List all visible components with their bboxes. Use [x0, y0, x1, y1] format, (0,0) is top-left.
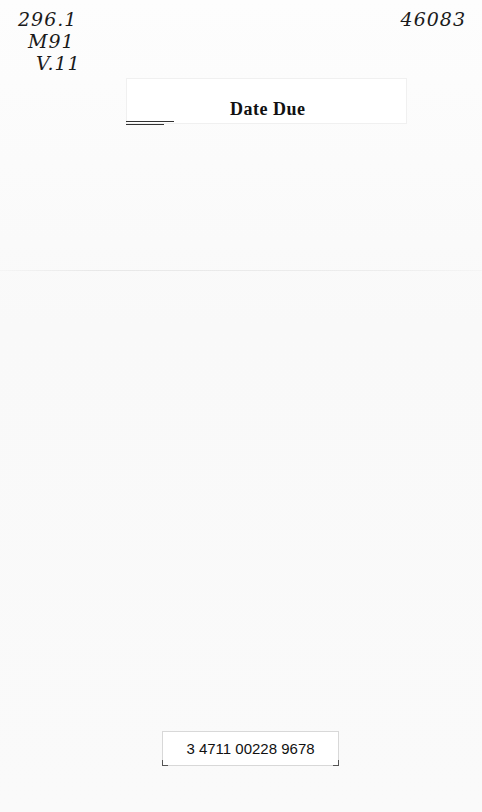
barcode-label: 3 4711 00228 9678: [162, 731, 339, 766]
corner-mark: [333, 760, 339, 766]
call-number: 296.1 M91 V.11: [18, 8, 81, 74]
accession-number: 46083: [401, 8, 466, 30]
barcode-number: 3 4711 00228 9678: [186, 740, 314, 757]
date-due-title: Date Due: [230, 99, 305, 120]
fold-line: [0, 270, 482, 271]
call-number-line: V.11: [36, 52, 81, 74]
rule-line: [126, 124, 164, 125]
call-number-line: 296.1: [18, 8, 81, 30]
rule-line: [126, 121, 174, 122]
call-number-line: M91: [28, 30, 81, 52]
date-due-header: Date Due: [126, 78, 407, 124]
corner-mark: [162, 760, 168, 766]
